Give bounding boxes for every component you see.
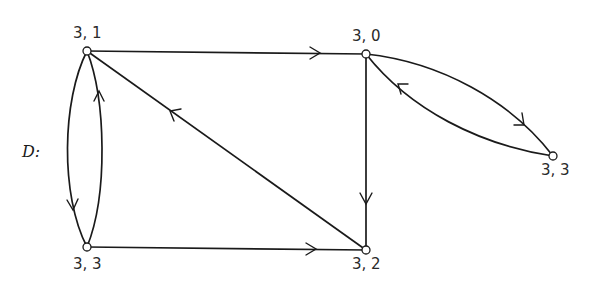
edge-33l-to-31 (87, 51, 102, 247)
node-label-3-0: 3, 0 (352, 29, 381, 44)
edge-31-to-33l (67, 51, 87, 247)
node-label-3-3-left: 3, 3 (73, 257, 102, 272)
edge-33r-to-30 (366, 54, 553, 156)
directed-graph (0, 0, 596, 296)
node-3-2 (362, 246, 370, 254)
node-3-3-right (549, 152, 557, 160)
node-3-0 (362, 50, 370, 58)
edge-30-to-33r (366, 54, 553, 156)
graph-name-label: D: (22, 144, 40, 160)
node-3-1 (83, 47, 91, 55)
edge-33l-to-32 (87, 247, 366, 250)
node-label-3-3-right: 3, 3 (541, 163, 570, 178)
node-3-3-left (83, 243, 91, 251)
edge-32-to-31 (87, 51, 366, 250)
edge-31-to-30 (87, 51, 366, 54)
node-label-3-1: 3, 1 (73, 26, 102, 41)
node-label-3-2: 3, 2 (352, 257, 381, 272)
